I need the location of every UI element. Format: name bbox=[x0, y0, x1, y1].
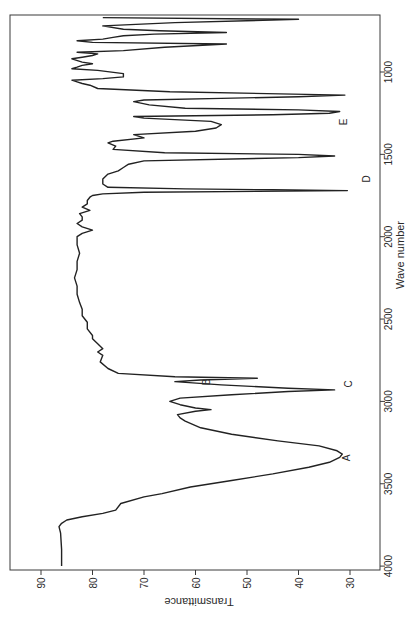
x-axis-label: Wave number bbox=[394, 221, 406, 289]
wavenumber-tick-label: 2000 bbox=[383, 225, 394, 248]
wavenumber-ticks: 4000350030002500200015001000 bbox=[380, 60, 394, 577]
transmittance-tick-label: 60 bbox=[191, 577, 202, 589]
transmittance-tick-label: 50 bbox=[242, 577, 253, 589]
transmittance-tick-label: 80 bbox=[88, 577, 99, 589]
transmittance-tick-label: 30 bbox=[345, 577, 356, 589]
transmittance-tick-label: 70 bbox=[139, 577, 150, 589]
peak-label-c: C bbox=[343, 380, 354, 387]
peak-label-b: B bbox=[201, 378, 212, 385]
wavenumber-tick-label: 3000 bbox=[383, 390, 394, 413]
transmittance-tick-label: 90 bbox=[36, 577, 47, 589]
transmittance-tick-label: 40 bbox=[294, 577, 305, 589]
peak-annotations: ABCDE bbox=[201, 118, 372, 461]
wavenumber-tick-label: 3500 bbox=[383, 472, 394, 495]
peak-label-d: D bbox=[361, 175, 372, 182]
peak-label-e: E bbox=[338, 118, 349, 125]
y-axis-label: Transmittance bbox=[164, 596, 233, 608]
spectrum-line bbox=[59, 18, 347, 567]
peak-label-a: A bbox=[341, 454, 352, 461]
wavenumber-tick-label: 4000 bbox=[383, 555, 394, 578]
wavenumber-tick-label: 2500 bbox=[383, 307, 394, 330]
transmittance-ticks: 90807060504030 bbox=[36, 570, 356, 589]
wavenumber-tick-label: 1500 bbox=[383, 143, 394, 166]
ir-spectrum-chart: 4000350030002500200015001000 90807060504… bbox=[0, 0, 418, 620]
wavenumber-tick-label: 1000 bbox=[383, 60, 394, 83]
